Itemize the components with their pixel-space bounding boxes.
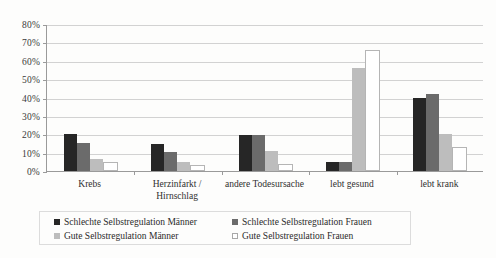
bar xyxy=(452,147,467,171)
y-axis-tick xyxy=(43,99,47,100)
bar xyxy=(439,134,452,171)
legend-swatch-icon xyxy=(232,233,238,239)
legend-swatch-icon xyxy=(232,219,238,225)
y-axis-tick xyxy=(43,43,47,44)
chart-legend: Schlechte Selbstregulation MännerSchlech… xyxy=(39,211,411,245)
y-axis-tick xyxy=(43,62,47,63)
x-axis-category-label: lebt krank xyxy=(396,178,483,190)
bar xyxy=(339,162,352,171)
legend-swatch-icon xyxy=(54,219,60,225)
bar-group-bars xyxy=(239,24,293,171)
bar xyxy=(265,151,278,171)
legend-item: Gute Selbstregulation Männer xyxy=(54,229,232,243)
y-axis-tick xyxy=(43,80,47,81)
bar-group xyxy=(151,24,205,171)
y-axis-tick xyxy=(43,154,47,155)
y-axis-tick-label: 20% xyxy=(22,130,40,140)
bar-chart: 0%10%20%30%40%50%60%70%80% KrebsHerzinfa… xyxy=(0,0,496,258)
bar xyxy=(326,162,339,171)
legend-item: Schlechte Selbstregulation Männer xyxy=(54,215,232,229)
bar-group xyxy=(239,24,293,171)
y-axis-tick xyxy=(43,25,47,26)
bar xyxy=(190,165,205,171)
bar-group-bars xyxy=(413,24,467,171)
bar xyxy=(103,162,118,171)
legend-label: Gute Selbstregulation Frauen xyxy=(242,231,353,241)
y-axis-tick-label: 60% xyxy=(22,57,40,67)
bar xyxy=(151,144,164,171)
legend-label: Schlechte Selbstregulation Männer xyxy=(64,217,197,227)
bar xyxy=(252,135,265,171)
x-axis-tick xyxy=(222,171,223,175)
legend-item: Gute Selbstregulation Frauen xyxy=(232,229,410,243)
y-axis-tick-label: 40% xyxy=(22,94,40,104)
legend-label: Schlechte Selbstregulation Frauen xyxy=(242,217,372,227)
bar xyxy=(90,159,103,171)
bar-group-bars xyxy=(151,24,205,171)
y-axis-tick-label: 30% xyxy=(22,112,40,122)
plot-area: 0%10%20%30%40%50%60%70%80% KrebsHerzinfa… xyxy=(0,0,496,190)
y-axis-tick-label: 70% xyxy=(22,38,40,48)
bar xyxy=(426,94,439,171)
bar xyxy=(278,164,293,171)
y-axis-tick-label: 10% xyxy=(22,149,40,159)
bar xyxy=(239,135,252,171)
bar xyxy=(365,50,380,171)
bar xyxy=(352,68,365,171)
x-axis-category-label: andere Todesursache xyxy=(221,178,308,190)
bar-group-bars xyxy=(64,24,118,171)
bar xyxy=(64,134,77,171)
bar xyxy=(177,162,190,171)
bar xyxy=(413,98,426,172)
y-axis-tick xyxy=(43,135,47,136)
plot-frame xyxy=(46,25,483,172)
y-axis-labels: 0%10%20%30%40%50%60%70%80% xyxy=(0,0,46,190)
bar-group xyxy=(326,24,380,171)
legend-swatch-icon xyxy=(54,233,60,239)
y-axis-tick xyxy=(43,117,47,118)
y-axis-tick-label: 80% xyxy=(22,20,40,30)
bar-group xyxy=(64,24,118,171)
bar xyxy=(77,143,90,171)
y-axis-tick-label: 0% xyxy=(27,167,40,177)
y-axis-tick-label: 50% xyxy=(22,75,40,85)
x-axis-category-label: Krebs xyxy=(46,178,133,190)
y-axis-tick xyxy=(43,172,47,173)
legend-item: Schlechte Selbstregulation Frauen xyxy=(232,215,410,229)
legend-label: Gute Selbstregulation Männer xyxy=(64,231,179,241)
bar-group xyxy=(413,24,467,171)
x-axis-tick xyxy=(397,171,398,175)
x-axis-tick xyxy=(134,171,135,175)
bar xyxy=(164,152,177,171)
x-axis-tick xyxy=(309,171,310,175)
x-axis-category-label: Herzinfarkt / Hirnschlag xyxy=(133,178,220,202)
x-axis-category-label: lebt gesund xyxy=(308,178,395,190)
bar-group-bars xyxy=(326,24,380,171)
